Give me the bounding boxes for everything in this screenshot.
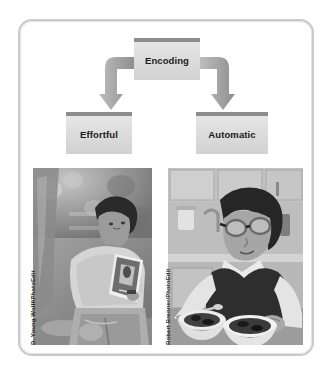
photo-effortful	[33, 168, 152, 345]
photo-automatic-image	[168, 168, 303, 345]
box-effortful: Effortful	[66, 112, 132, 154]
box-encoding-label: Encoding	[145, 56, 189, 66]
box-encoding: Encoding	[134, 38, 200, 80]
box-automatic-label: Automatic	[208, 130, 255, 140]
photo-effortful-image	[33, 168, 152, 345]
box-effortful-label: Effortful	[80, 130, 118, 140]
box-automatic: Automatic	[196, 112, 268, 154]
encoding-figure: Encoding Effortful Automatic	[0, 0, 333, 376]
photo-credit-automatic: Robert Brenner/PhotoEdit	[165, 269, 171, 345]
photo-automatic	[168, 168, 303, 345]
photo-credit-effortful: D. Young Wolff/PhotoEdit	[30, 270, 36, 345]
